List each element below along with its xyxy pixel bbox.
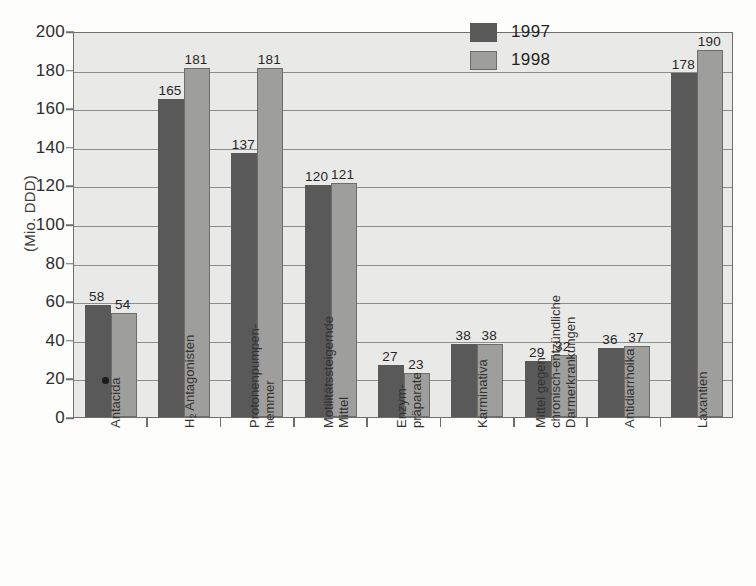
bar-1997-7 xyxy=(598,348,624,417)
x-axis-label: MotilitätssteigerndeMittel xyxy=(321,316,351,428)
x-axis-label: Karminativa xyxy=(475,359,490,428)
y-tick-label: 160 xyxy=(5,99,65,119)
x-label-line: chronisch-entzündliche xyxy=(548,295,563,428)
bar-value-label: 37 xyxy=(616,330,656,345)
x-tick-mark xyxy=(586,418,588,427)
x-tick-mark xyxy=(293,418,295,427)
y-tick-label: 20 xyxy=(5,369,65,389)
bar-value-label: 165 xyxy=(150,83,190,98)
bar-1997-5 xyxy=(451,344,477,417)
bar-value-label: 137 xyxy=(223,137,263,152)
bar-value-label: 23 xyxy=(396,357,436,372)
x-tick-mark xyxy=(660,418,662,427)
x-label-line: Protonenpumpen- xyxy=(247,324,262,428)
x-tick-mark xyxy=(440,418,442,427)
x-label-line: Darmerkrankungen xyxy=(563,295,578,428)
x-label-line: Motilitätssteigernde xyxy=(321,316,336,428)
bar-1997-8 xyxy=(671,73,697,417)
x-tick-mark xyxy=(366,418,368,427)
bar-value-label: 38 xyxy=(469,328,509,343)
x-axis-label: Protonenpumpen-hemmer xyxy=(247,324,277,428)
bar-value-label: 178 xyxy=(663,57,703,72)
bar-value-label: 190 xyxy=(689,34,729,49)
legend-label-1997: 1997 xyxy=(511,22,550,42)
x-label-line: Laxantien xyxy=(695,372,710,428)
x-axis-label: Enzym-präparate xyxy=(394,372,424,428)
bar-value-label: 181 xyxy=(249,52,289,67)
bar-value-label: 121 xyxy=(323,167,363,182)
x-tick-mark xyxy=(220,418,222,427)
x-axis-label: Mittel gegenchronisch-entzündlicheDarmer… xyxy=(533,295,578,428)
y-tick-label: 140 xyxy=(5,138,65,158)
x-axis-label: Laxantien xyxy=(695,372,710,428)
bar-value-label: 54 xyxy=(103,297,143,312)
gridline xyxy=(74,72,732,73)
x-axis-label: H2 Antagonisten xyxy=(182,335,201,428)
x-label-line: Karminativa xyxy=(475,359,490,428)
bar-chart: (Mio. DDD) 020406080100120140160180200 5… xyxy=(0,0,756,586)
y-tick-label: 40 xyxy=(5,331,65,351)
y-tick-label: 120 xyxy=(5,176,65,196)
x-label-line: Antacida xyxy=(108,377,123,428)
bar-1997-1 xyxy=(158,99,184,417)
x-axis-label: Antacida xyxy=(108,377,123,428)
x-label-line: Mittel xyxy=(336,316,351,428)
bar-value-label: 181 xyxy=(176,52,216,67)
y-tick-label: 100 xyxy=(5,215,65,235)
x-label-line: H2 Antagonisten xyxy=(182,335,201,428)
y-tick-label: 200 xyxy=(5,22,65,42)
x-label-line: präparate xyxy=(409,372,424,428)
y-tick-label: 180 xyxy=(5,61,65,81)
legend-item-1998: 1998 xyxy=(470,48,550,72)
legend-swatch-1997 xyxy=(470,23,497,42)
x-label-line: Enzym- xyxy=(394,372,409,428)
bar-1997-0 xyxy=(85,305,111,417)
x-label-line: Mittel gegen xyxy=(533,295,548,428)
x-axis-label: Antidiarrhoika xyxy=(622,349,637,429)
y-tick-label: 80 xyxy=(5,254,65,274)
x-label-line: hemmer xyxy=(262,324,277,428)
y-tick-label: 0 xyxy=(5,408,65,428)
bar-1998-8 xyxy=(697,50,723,417)
legend-swatch-1998 xyxy=(470,51,497,70)
legend-label-1998: 1998 xyxy=(511,50,550,70)
legend-item-1997: 1997 xyxy=(470,20,550,44)
legend: 1997 1998 xyxy=(470,20,550,76)
y-tick-label: 60 xyxy=(5,292,65,312)
x-label-line: Antidiarrhoika xyxy=(622,349,637,429)
x-tick-mark xyxy=(513,418,515,427)
x-tick-mark xyxy=(146,418,148,427)
